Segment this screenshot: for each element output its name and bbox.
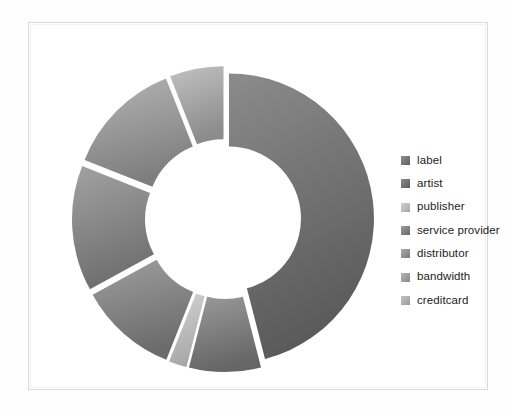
legend-swatch (401, 226, 410, 235)
doughnut-chart-svg (59, 47, 399, 391)
legend-item[interactable]: artist (401, 172, 512, 195)
legend-item[interactable]: distributor (401, 242, 512, 265)
doughnut-slices (72, 66, 374, 372)
legend-swatch (401, 203, 410, 212)
legend-item[interactable]: label (401, 149, 512, 172)
legend-item-label: distributor (417, 248, 469, 260)
legend-item-label: label (417, 155, 442, 167)
legend-item-label: creditcard (417, 295, 469, 307)
page-root: label artist publisher service provider … (0, 0, 512, 412)
doughnut-chart (59, 47, 399, 391)
legend-swatch (401, 179, 410, 188)
legend-item-label: service provider (417, 225, 500, 237)
legend-swatch (401, 296, 410, 305)
legend-item[interactable]: bandwidth (401, 265, 512, 288)
legend-swatch (401, 156, 410, 165)
content-frame: label artist publisher service provider … (28, 22, 488, 390)
doughnut-slice[interactable] (85, 79, 193, 187)
legend-item-label: publisher (417, 201, 465, 213)
legend-item[interactable]: publisher (401, 196, 512, 219)
legend-item-label: artist (417, 178, 443, 190)
legend-swatch (401, 273, 410, 282)
legend-item[interactable]: service provider (401, 219, 512, 242)
legend-item[interactable]: creditcard (401, 289, 512, 312)
legend-swatch (401, 249, 410, 258)
chart-legend: label artist publisher service provider … (401, 149, 512, 312)
legend-item-label: bandwidth (417, 271, 470, 283)
doughnut-slice[interactable] (229, 74, 374, 359)
